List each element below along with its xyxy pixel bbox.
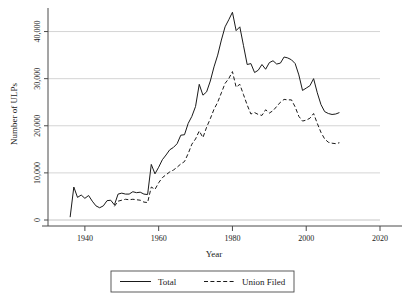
y-tick-label: 10,000: [33, 162, 42, 184]
legend-label: Total: [158, 277, 177, 287]
legend-entry-union-filed: Union Filed: [204, 277, 286, 287]
x-tick-label: 2000: [298, 234, 314, 243]
legend-entry-total: Total: [120, 277, 177, 287]
x-tick-label: 1980: [224, 234, 240, 243]
y-tick-label: 20,000: [33, 115, 42, 137]
chart-figure: 010,00020,00030,00040,000194019601980200…: [0, 0, 405, 298]
y-tick-label: 30,000: [33, 68, 42, 90]
ulp-line-chart: 010,00020,00030,00040,000194019601980200…: [0, 0, 405, 298]
x-tick-label: 2020: [372, 234, 388, 243]
series-line-total: [70, 12, 339, 217]
y-axis-title: Number of ULPs: [9, 83, 19, 145]
x-tick-label: 1940: [77, 234, 93, 243]
x-axis-title: Year: [206, 249, 223, 259]
y-tick-label: 0: [33, 218, 42, 222]
y-tick-label: 40,000: [33, 21, 42, 43]
legend-label: Union Filed: [242, 277, 286, 287]
x-tick-label: 1960: [151, 234, 167, 243]
